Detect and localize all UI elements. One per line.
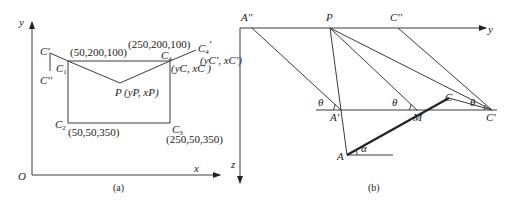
- ray-a2-a1: [252, 28, 341, 110]
- coord-c3: (250,50,350): [166, 133, 223, 146]
- label-a-prime: A': [329, 111, 340, 123]
- coord-c2: (50,50,350): [68, 126, 120, 139]
- label-c-prime: C': [40, 45, 50, 57]
- z-axis-label-b: z: [230, 158, 236, 170]
- ray-p-m: [330, 28, 417, 110]
- coord-c4-prime-local: (yC', xC'): [200, 54, 242, 67]
- label-c-double-prime: C'': [390, 11, 403, 23]
- coord-c4: (250,200,100): [128, 38, 191, 51]
- panel-a-label: (a): [113, 182, 124, 194]
- label-p-b: P: [325, 11, 333, 23]
- figure-canvas: y x O C' C'' C1 C4 C2 C3 C4' P (yP, xP) …: [0, 0, 508, 208]
- origin-label: O: [18, 170, 26, 182]
- label-c2: C2: [55, 118, 66, 132]
- coord-c1: (50,200,100): [70, 46, 127, 59]
- theta-arc-m: [409, 104, 411, 110]
- theta-arc-a-prime: [333, 104, 335, 110]
- label-c-prime-b: C': [486, 111, 496, 123]
- label-alpha: α: [361, 142, 367, 154]
- y-axis-label-a: y: [18, 16, 24, 28]
- panel-b-label: (b): [368, 182, 380, 194]
- alpha-arc: [356, 150, 357, 155]
- label-p-a: P: [114, 86, 122, 98]
- y-axis-label-b: y: [487, 23, 493, 35]
- label-c1: C1: [56, 62, 67, 76]
- panel-b: y z A'' P C'' A' M C' C A θ θ θ α (b): [230, 11, 497, 194]
- label-theta-2: θ: [392, 96, 398, 108]
- label-a-double-prime: A'': [240, 11, 253, 23]
- coord-p: (yP, xP): [124, 86, 159, 99]
- panel-a: y x O C' C'' C1 C4 C2 C3 C4' P (yP, xP) …: [18, 16, 242, 194]
- label-theta-1: θ: [318, 96, 324, 108]
- label-c: C: [445, 91, 453, 103]
- label-a: A: [336, 150, 344, 162]
- label-c-double-prime: C'': [40, 74, 53, 86]
- label-c4: C4: [161, 49, 172, 63]
- label-m: M: [412, 111, 423, 123]
- ray-p-a: [330, 28, 347, 155]
- x-axis-label-a: x: [193, 162, 199, 174]
- label-theta-3: θ: [470, 96, 476, 108]
- ray-p-c-prime: [330, 28, 492, 110]
